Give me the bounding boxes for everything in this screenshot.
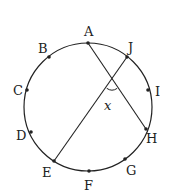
angle-arc	[107, 88, 117, 90]
point-f-dot	[87, 169, 91, 173]
point-j-dot	[125, 55, 129, 59]
point-i-dot	[146, 88, 150, 92]
point-b-label: B	[38, 41, 48, 56]
points: ABCDEFGHIJ	[13, 24, 160, 193]
circle-diagram: ABCDEFGHIJ x	[0, 0, 169, 195]
point-a-dot	[86, 41, 90, 45]
chord-ah	[88, 43, 146, 129]
point-f-label: F	[84, 178, 93, 193]
point-g-dot	[123, 157, 127, 161]
circle	[24, 43, 152, 171]
point-d-dot	[29, 130, 33, 134]
point-d-label: D	[16, 128, 26, 143]
chord-je	[54, 57, 127, 161]
point-i-label: I	[155, 84, 160, 99]
point-b-dot	[47, 55, 51, 59]
angle-label-x: x	[104, 98, 112, 113]
point-c-label: C	[13, 83, 23, 98]
point-h-label: H	[146, 131, 157, 146]
point-c-dot	[25, 88, 29, 92]
point-a-label: A	[83, 24, 94, 39]
point-e-dot	[52, 159, 56, 163]
point-g-label: G	[126, 163, 136, 178]
point-j-label: J	[126, 40, 133, 55]
point-e-label: E	[42, 165, 52, 180]
